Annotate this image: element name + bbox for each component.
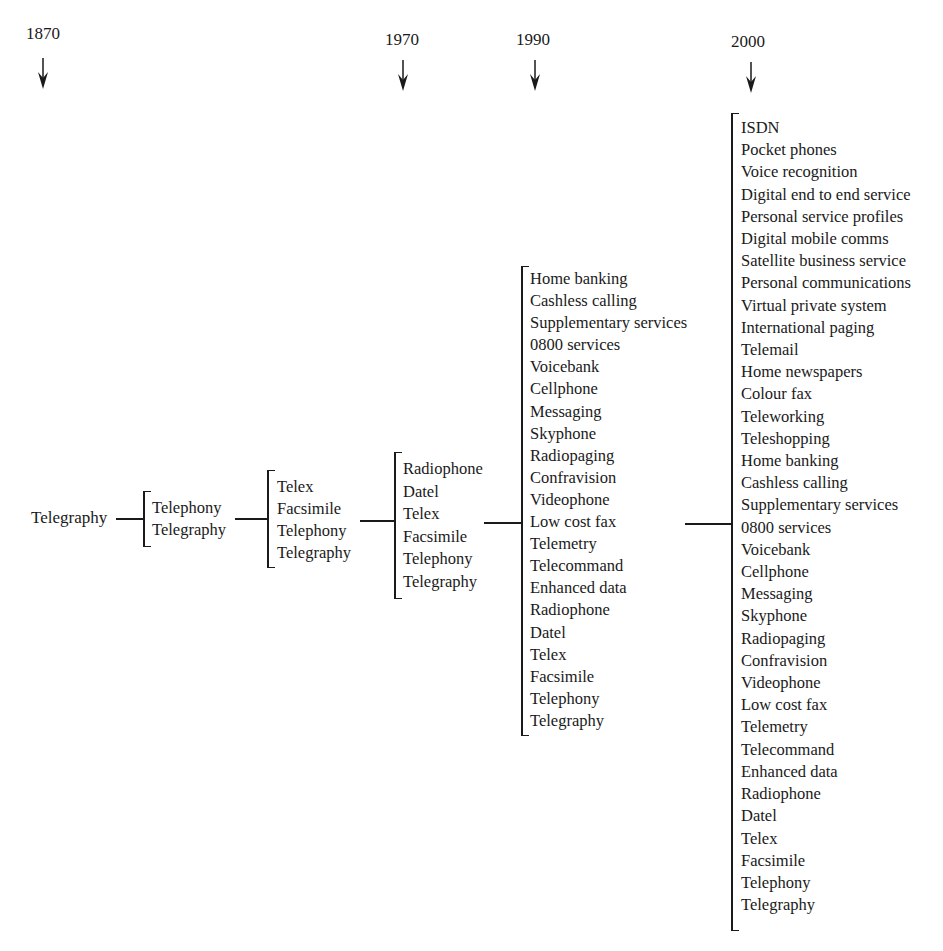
- list-item: Enhanced data: [741, 761, 911, 783]
- list-item: Telex: [277, 476, 351, 498]
- list-item: Radiopaging: [741, 628, 911, 650]
- list-item: Virtual private system: [741, 295, 911, 317]
- year-label-1870: 1870: [26, 24, 60, 44]
- stage-bracket: [731, 113, 739, 931]
- connector-line: [360, 520, 395, 522]
- list-item: Messaging: [530, 401, 687, 423]
- stage-bracket: [394, 452, 402, 599]
- list-item: Cellphone: [741, 561, 911, 583]
- connector-line: [484, 522, 522, 524]
- list-item: Telecommand: [530, 555, 687, 577]
- down-arrow-icon: [397, 60, 409, 92]
- list-item: 0800 services: [530, 334, 687, 356]
- list-item: Datel: [741, 805, 911, 827]
- list-item: Colour fax: [741, 383, 911, 405]
- list-item: Radiopaging: [530, 445, 687, 467]
- stage-bracket: [143, 491, 151, 547]
- list-item: Telegraphy: [277, 542, 351, 564]
- list-item: Digital end to end service: [741, 184, 911, 206]
- list-item: Teleworking: [741, 406, 911, 428]
- down-arrow-icon: [37, 58, 49, 90]
- list-item: Digital mobile comms: [741, 228, 911, 250]
- list-item: Messaging: [741, 583, 911, 605]
- list-item: International paging: [741, 317, 911, 339]
- list-item: Videophone: [530, 489, 687, 511]
- stage-bracket: [267, 470, 275, 568]
- list-item: 0800 services: [741, 517, 911, 539]
- stage-4-list: Home banking Cashless calling Supplement…: [530, 268, 687, 732]
- list-item: Home banking: [741, 450, 911, 472]
- list-item: Telegraphy: [403, 571, 483, 594]
- list-item: Home banking: [530, 268, 687, 290]
- list-item: Cashless calling: [530, 290, 687, 312]
- stage-bracket: [521, 266, 529, 736]
- list-item: Voice recognition: [741, 161, 911, 183]
- list-item: Teleshopping: [741, 428, 911, 450]
- stage-5-list: ISDN Pocket phones Voice recognition Dig…: [741, 117, 911, 916]
- stage-2-list: Telex Facsimile Telephony Telegraphy: [277, 476, 351, 564]
- list-item: Telex: [403, 503, 483, 526]
- list-item: Facsimile: [530, 666, 687, 688]
- list-item: Home newspapers: [741, 361, 911, 383]
- list-item: Low cost fax: [530, 511, 687, 533]
- list-item: Supplementary services: [741, 494, 911, 516]
- list-item: Telemail: [741, 339, 911, 361]
- list-item: Telephony: [403, 548, 483, 571]
- list-item: Low cost fax: [741, 694, 911, 716]
- list-item: Telex: [530, 644, 687, 666]
- list-item: Datel: [530, 622, 687, 644]
- list-item: Supplementary services: [530, 312, 687, 334]
- list-item: Telecommand: [741, 739, 911, 761]
- year-label-1990: 1990: [516, 30, 550, 50]
- down-arrow-icon: [529, 60, 541, 92]
- connector-line: [685, 523, 732, 525]
- list-item: Telemetry: [741, 716, 911, 738]
- down-arrow-icon: [745, 62, 757, 94]
- list-item: Datel: [403, 481, 483, 504]
- list-item: Telegraphy: [152, 519, 226, 541]
- list-item: Cashless calling: [741, 472, 911, 494]
- list-item: Voicebank: [530, 356, 687, 378]
- list-item: Telephony: [530, 688, 687, 710]
- year-label-2000: 2000: [731, 32, 765, 52]
- list-item: Telex: [741, 828, 911, 850]
- list-item: Skyphone: [741, 605, 911, 627]
- list-item: Pocket phones: [741, 139, 911, 161]
- connector-line: [116, 518, 144, 520]
- list-item: Voicebank: [741, 539, 911, 561]
- list-item: Confravision: [741, 650, 911, 672]
- list-item: Telegraphy: [530, 710, 687, 732]
- year-label-1970: 1970: [385, 30, 419, 50]
- list-item: Facsimile: [277, 498, 351, 520]
- list-item: Radiophone: [403, 458, 483, 481]
- list-item: Confravision: [530, 467, 687, 489]
- list-item: Enhanced data: [530, 577, 687, 599]
- stage-1-list: Telephony Telegraphy: [152, 497, 226, 541]
- list-item: ISDN: [741, 117, 911, 139]
- list-item: Radiophone: [530, 599, 687, 621]
- list-item: Satellite business service: [741, 250, 911, 272]
- list-item: Telephony: [741, 872, 911, 894]
- connector-line: [235, 518, 268, 520]
- list-item: Personal communications: [741, 272, 911, 294]
- list-item: Telegraphy: [741, 894, 911, 916]
- list-item: Telephony: [277, 520, 351, 542]
- list-item: Telemetry: [530, 533, 687, 555]
- list-item: Skyphone: [530, 423, 687, 445]
- list-item: Videophone: [741, 672, 911, 694]
- list-item: Radiophone: [741, 783, 911, 805]
- list-item: Facsimile: [403, 526, 483, 549]
- root-node-telegraphy: Telegraphy: [31, 507, 107, 529]
- list-item: Facsimile: [741, 850, 911, 872]
- list-item: Cellphone: [530, 378, 687, 400]
- list-item: Telephony: [152, 497, 226, 519]
- stage-3-list: Radiophone Datel Telex Facsimile Telepho…: [403, 458, 483, 594]
- list-item: Personal service profiles: [741, 206, 911, 228]
